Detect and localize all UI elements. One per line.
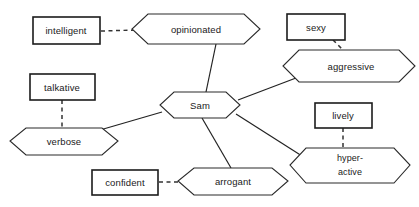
node-arrogant[interactable]: arrogant xyxy=(178,168,288,195)
edge-sam-arrogant xyxy=(202,118,231,168)
node-talkative[interactable]: talkative xyxy=(30,74,95,100)
semantic-network-diagram: opinionated aggressive hyper- active arr… xyxy=(0,0,419,207)
hyperactive-label-line2: active xyxy=(338,167,362,177)
node-opinionated[interactable]: opinionated xyxy=(132,14,260,44)
intelligent-label: intelligent xyxy=(45,25,86,36)
confident-label: confident xyxy=(105,177,145,188)
node-verbose[interactable]: verbose xyxy=(10,128,118,155)
edge-sam-hyperactive xyxy=(236,114,302,156)
edge-sam-verbose xyxy=(100,112,162,130)
node-sexy[interactable]: sexy xyxy=(287,14,345,40)
edge-intelligent-opinionated xyxy=(101,30,137,31)
node-intelligent[interactable]: intelligent xyxy=(33,17,100,44)
aggressive-label: aggressive xyxy=(328,61,375,72)
opinionated-label: opinionated xyxy=(171,24,221,35)
hyperactive-label-line1: hyper- xyxy=(337,153,363,163)
edge-sam-aggressive xyxy=(238,78,296,100)
node-aggressive[interactable]: aggressive xyxy=(283,50,415,82)
lively-label: lively xyxy=(332,110,354,121)
talkative-label: talkative xyxy=(44,82,80,93)
arrogant-label: arrogant xyxy=(215,176,251,187)
node-hyperactive[interactable]: hyper- active xyxy=(290,148,410,183)
node-sam[interactable]: Sam xyxy=(160,92,240,118)
diagram-svg: opinionated aggressive hyper- active arr… xyxy=(0,0,419,207)
node-lively[interactable]: lively xyxy=(315,103,372,128)
edge-sam-opinionated xyxy=(206,44,216,92)
sam-label: Sam xyxy=(190,100,210,111)
verbose-label: verbose xyxy=(47,136,82,147)
node-confident[interactable]: confident xyxy=(92,170,158,195)
sexy-label: sexy xyxy=(306,22,326,33)
